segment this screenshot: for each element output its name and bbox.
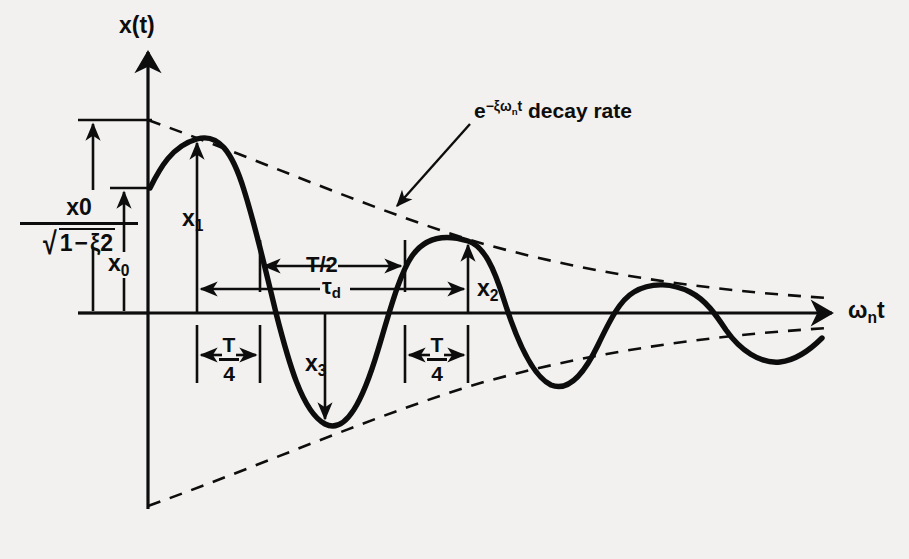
decay-note-text: decay rate — [528, 99, 632, 122]
quarter-left-denominator: 4 — [219, 361, 239, 385]
radicand-xi: ξ — [90, 230, 100, 256]
x-axis-label-t: t — [877, 297, 885, 323]
x2-label-base: x — [477, 275, 490, 301]
decay-note-e: e — [474, 99, 486, 122]
damped-period-tau: τ — [322, 274, 332, 299]
x0-label-base: x — [108, 250, 121, 276]
half-period-label: T/2 — [306, 254, 338, 276]
x1-label-subscript: 1 — [195, 217, 204, 234]
square-root-icon: √ — [43, 228, 57, 259]
x-axis-label-subscript: n — [867, 309, 877, 326]
envelope-amplitude-numerator: x0 — [20, 196, 138, 222]
radicand-one: 1 — [60, 230, 73, 256]
y-axis-label: x(t) — [119, 14, 155, 37]
x1-label-base: x — [182, 205, 195, 231]
axes-group — [78, 52, 832, 509]
quarter-period-right-label: T 4 — [427, 334, 447, 385]
decay-note-leader-line — [397, 124, 470, 206]
envelope-amplitude-num-subscript: 0 — [79, 194, 92, 220]
quarter-right-numerator: T — [427, 334, 447, 358]
quarter-left-numerator: T — [219, 334, 239, 358]
quarter-right-denominator: 4 — [427, 361, 447, 385]
x3-label: x3 — [305, 352, 327, 378]
figure-canvas — [0, 0, 909, 559]
envelope-amplitude-label: x0 √1−ξ2 — [20, 196, 138, 255]
damped-vibration-figure: x(t) ωnt e−ξωnt decay rate x0 √1−ξ2 x0 x… — [0, 0, 909, 559]
quarter-period-left-label: T 4 — [219, 334, 239, 385]
radicand-minus: − — [73, 230, 90, 256]
decay-note-leader-group — [397, 124, 470, 206]
decay-note-exponent: −ξω — [486, 98, 512, 114]
x0-label: x0 — [108, 252, 130, 278]
radicand: 1−ξ2 — [59, 228, 115, 255]
envelope-amplitude-num-x: x — [66, 194, 79, 220]
x2-label: x2 — [477, 277, 499, 303]
x3-label-subscript: 3 — [318, 362, 327, 379]
decay-rate-annotation: e−ξωnt decay rate — [474, 100, 632, 121]
radicand-wrapper: 1−ξ2 — [57, 228, 115, 255]
damped-period-subscript: d — [332, 284, 341, 301]
x-axis-label-omega: ω — [848, 297, 867, 323]
x0-label-subscript: 0 — [121, 262, 130, 279]
x-axis-label: ωnt — [848, 299, 885, 325]
x2-label-subscript: 2 — [490, 287, 499, 304]
x3-label-base: x — [305, 350, 318, 376]
damped-period-label: τd — [322, 276, 341, 301]
x1-label: x1 — [182, 207, 204, 233]
